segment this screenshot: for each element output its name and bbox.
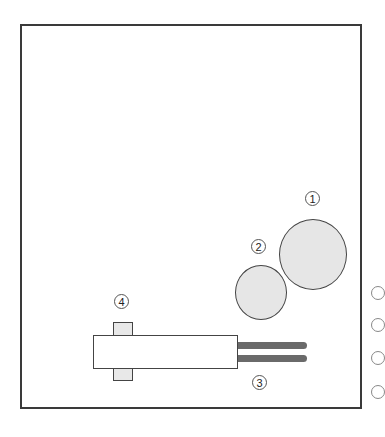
clipped-marker — [371, 286, 385, 300]
cylinder-body — [93, 335, 238, 369]
label-3: 3 — [252, 375, 267, 390]
clipped-marker — [371, 318, 385, 332]
label-4: 4 — [114, 294, 129, 309]
clipped-marker — [371, 351, 385, 365]
rod-lower — [237, 355, 307, 362]
large-circle — [279, 219, 347, 290]
rod-upper — [237, 342, 307, 349]
small-circle — [235, 265, 287, 320]
label-2: 2 — [251, 239, 266, 254]
label-1: 1 — [305, 191, 320, 206]
clipped-marker — [371, 385, 385, 399]
